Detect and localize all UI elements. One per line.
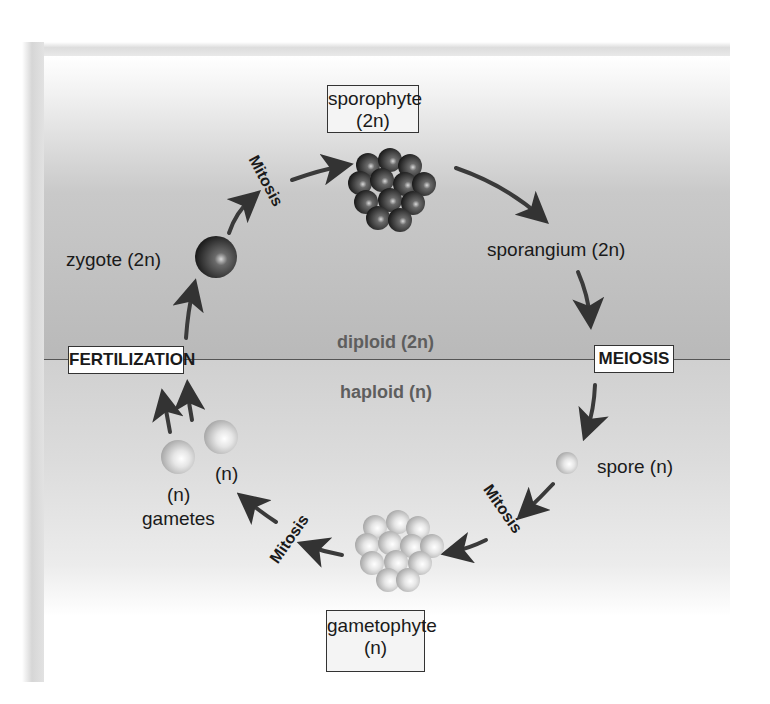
sporangium-label: sporangium (2n) xyxy=(487,239,625,261)
arrow-fertilization-to-zygote xyxy=(186,290,193,338)
gamete-ploidy-label: (n) xyxy=(215,463,238,485)
gametophyte-ploidy: (n) xyxy=(327,637,424,659)
gamete-cell-icon xyxy=(204,420,238,454)
arrow-zygote-to-mitosis xyxy=(229,198,252,233)
arrow-meiosis-to-spore xyxy=(587,385,595,430)
arrow-sporangium-to-meiosis xyxy=(578,272,590,318)
sporophyte-cluster-icon xyxy=(348,148,436,232)
sporophyte-box: sporophyte (2n) xyxy=(327,85,419,133)
fertilization-box: FERTILIZATION xyxy=(68,346,184,374)
zygote-label: zygote (2n) xyxy=(66,249,161,271)
gamete-cell-icon xyxy=(161,440,195,474)
meiosis-box: MEIOSIS xyxy=(594,345,674,373)
arrow-sporophyte-to-sporangium xyxy=(456,168,540,216)
gamete-ploidy-label: (n) xyxy=(167,484,190,506)
sporophyte-label: sporophyte xyxy=(328,88,418,110)
diploid-zone-label: diploid (2n) xyxy=(337,332,434,353)
gametophyte-box: gametophyte (n) xyxy=(326,610,425,672)
spore-label: spore (n) xyxy=(597,456,673,478)
arrow-gamete1-to-fertilization xyxy=(164,400,170,432)
arrow-gamete2-to-fertilization xyxy=(188,391,192,420)
gametophyte-cluster-icon xyxy=(355,510,444,592)
arrow-mitosis-to-sporophyte xyxy=(292,166,342,180)
arrow-spore-to-mitosis xyxy=(525,484,553,512)
arrow-mitosis-to-gametophyte xyxy=(452,540,486,552)
zygote-cell-icon xyxy=(195,236,237,278)
haploid-zone-label: haploid (n) xyxy=(340,382,432,403)
gametophyte-label: gametophyte xyxy=(327,615,424,637)
arrow-gametophyte-to-mitosis xyxy=(308,546,342,555)
arrow-mitosis-to-gametes xyxy=(246,500,276,522)
gametes-label: gametes xyxy=(142,508,215,530)
sporophyte-ploidy: (2n) xyxy=(328,110,418,132)
spore-cell-icon xyxy=(556,452,578,474)
